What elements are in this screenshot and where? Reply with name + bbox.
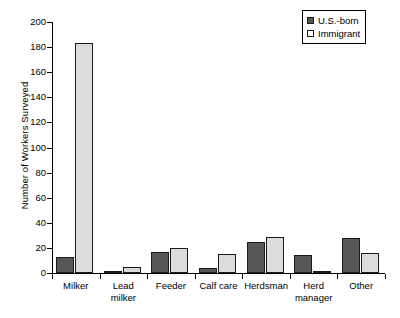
bar-group	[147, 22, 195, 273]
x-axis-tick-labels: MilkerLead milkerFeederCalf careHerdsman…	[52, 280, 385, 318]
bar	[104, 271, 122, 273]
bar	[247, 242, 265, 273]
bar	[151, 252, 169, 273]
bar-group	[195, 22, 243, 273]
x-axis-tick	[195, 274, 196, 279]
x-axis-tick-label: Feeder	[147, 280, 195, 292]
x-axis-tick-label: Lead milker	[100, 280, 148, 303]
x-axis-tick	[242, 274, 243, 279]
bar	[170, 248, 188, 273]
x-axis-tick	[290, 274, 291, 279]
bar-chart: Number of Workers Surveyed 0204060801001…	[0, 0, 400, 318]
bar	[199, 268, 217, 273]
bar	[361, 253, 379, 273]
y-axis-tick-label: 100	[30, 143, 46, 153]
bar	[56, 257, 74, 273]
bar	[75, 43, 93, 273]
legend-swatch-us-born	[307, 17, 314, 24]
x-axis-tick-label: Other	[337, 280, 385, 292]
x-axis-tick-label: Calf care	[195, 280, 243, 292]
legend-item-us-born: U.S.-born	[307, 14, 360, 27]
y-axis-tick-label: 160	[30, 67, 46, 77]
y-axis-tick-label: 20	[35, 243, 46, 253]
y-axis-tick-label: 60	[35, 193, 46, 203]
y-axis-tick-label: 0	[41, 268, 46, 278]
bar-group	[242, 22, 290, 273]
y-axis-tick-label: 80	[35, 168, 46, 178]
bar	[218, 254, 236, 273]
y-axis-tick-label: 40	[35, 218, 46, 228]
bar	[313, 271, 331, 274]
chart-legend: U.S.-born Immigrant	[302, 10, 366, 44]
bar-group	[52, 22, 100, 273]
plot-area: 020406080100120140160180200	[52, 22, 385, 273]
bar	[342, 238, 360, 273]
legend-label-immigrant: Immigrant	[318, 29, 360, 39]
bar	[294, 255, 312, 273]
y-axis-tick-label: 120	[30, 117, 46, 127]
y-axis-tick-label: 140	[30, 92, 46, 102]
bar-group	[290, 22, 338, 273]
x-axis-line	[52, 273, 385, 274]
x-axis-tick-label: Herd manager	[290, 280, 338, 303]
bar-group	[100, 22, 148, 273]
bar	[266, 237, 284, 273]
x-axis-tick	[337, 274, 338, 279]
y-axis-tick-label: 180	[30, 42, 46, 52]
legend-item-immigrant: Immigrant	[307, 27, 360, 40]
y-axis-tick-labels: 020406080100120140160180200	[8, 22, 46, 273]
legend-swatch-immigrant	[307, 30, 314, 37]
x-axis-tick	[100, 274, 101, 279]
x-axis-tick	[147, 274, 148, 279]
bar-group	[337, 22, 385, 273]
y-axis-tick-label: 200	[30, 17, 46, 27]
x-axis-tick	[385, 274, 386, 279]
legend-label-us-born: U.S.-born	[318, 16, 359, 26]
x-axis-tick-label: Herdsman	[242, 280, 290, 292]
x-axis-tick	[52, 274, 53, 279]
bar	[123, 267, 141, 273]
x-axis-tick-label: Milker	[52, 280, 100, 292]
